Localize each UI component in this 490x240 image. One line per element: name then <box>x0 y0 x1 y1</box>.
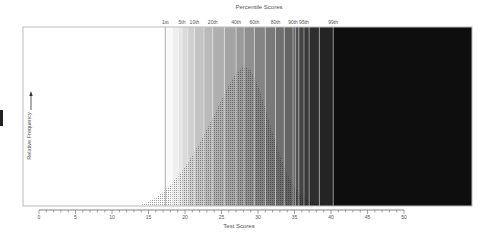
x-tick-label: 10 <box>109 214 115 220</box>
percentile-label: 99th <box>328 19 338 25</box>
percentile-label: 95th <box>299 19 309 25</box>
percentile-label: 60th <box>249 19 259 25</box>
x-tick-label: 20 <box>182 214 188 220</box>
x-tick-label: 40 <box>328 214 334 220</box>
percentile-label: 20th <box>208 19 218 25</box>
x-tick-label: 15 <box>146 214 152 220</box>
x-tick-label: 35 <box>292 214 298 220</box>
x-tick-label: 30 <box>255 214 261 220</box>
x-tick-label: 45 <box>365 214 371 220</box>
percentile-chart: Percentile Scores 1st5th10th20th40th60th… <box>0 0 490 240</box>
percentile-label: 10th <box>190 19 200 25</box>
chart-title: Percentile Scores <box>235 4 282 10</box>
y-axis-label: Relative Frequency <box>26 112 32 160</box>
percentile-labels: 1st5th10th20th40th60th80th90th95th99th <box>162 19 338 25</box>
x-axis-label: Test Scores <box>223 223 254 229</box>
x-tick-label: 0 <box>38 214 41 220</box>
x-tick-label: 25 <box>219 214 225 220</box>
x-tick-label: 5 <box>74 214 77 220</box>
percentile-label: 90th <box>288 19 298 25</box>
percentile-label: 5th <box>179 19 186 25</box>
percentile-label: 1st <box>162 19 169 25</box>
x-axis: 05101520253035404550 <box>38 210 407 220</box>
percentile-label: 80th <box>271 19 281 25</box>
percentile-label: 40th <box>231 19 241 25</box>
x-tick-label: 50 <box>401 214 407 220</box>
